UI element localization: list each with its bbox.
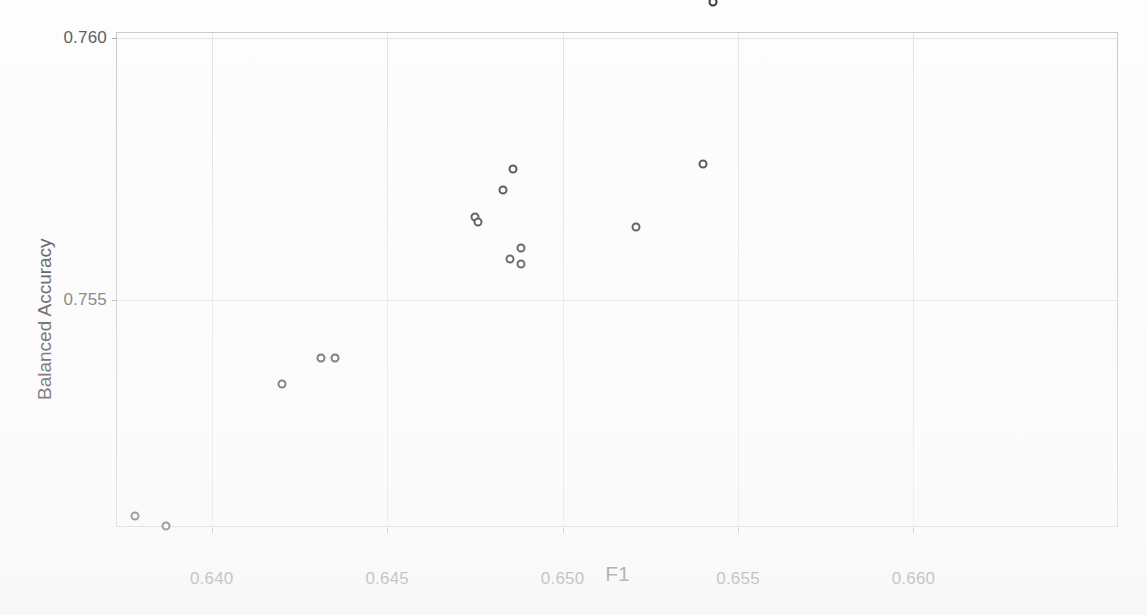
y-tick-mark (112, 38, 117, 39)
x-tick-mark (212, 528, 213, 533)
x-gridline (913, 33, 914, 526)
data-point (316, 354, 325, 363)
data-point (516, 244, 525, 253)
x-tick-mark (913, 528, 914, 533)
x-tick-mark (387, 528, 388, 533)
x-tick-mark (738, 528, 739, 533)
data-point (698, 160, 707, 169)
y-tick-label: 0.755 (17, 290, 107, 310)
data-point (516, 259, 525, 268)
y-tick-label: 0.760 (17, 28, 107, 48)
data-point (509, 165, 518, 174)
x-gridline (387, 33, 388, 526)
x-axis-label-text: F1 (605, 562, 630, 585)
plot-area: 0.6400.6450.6500.6550.6600.7550.760 (116, 32, 1118, 527)
data-point (162, 522, 171, 531)
y-axis-label: Balanced Accuracy (34, 238, 56, 400)
y-gridline (117, 38, 1117, 39)
x-gridline (738, 33, 739, 526)
x-axis-label: F1 (0, 562, 1147, 586)
data-point (498, 186, 507, 195)
scatter-plot-figure: 0.6400.6450.6500.6550.6600.7550.760 F1 B… (0, 0, 1147, 615)
x-tick-mark (563, 528, 564, 533)
data-point (505, 254, 514, 263)
data-point (330, 354, 339, 363)
x-gridline (563, 33, 564, 526)
data-point (474, 217, 483, 226)
y-tick-mark (112, 300, 117, 301)
data-point (277, 380, 286, 389)
y-gridline (117, 300, 1117, 301)
data-point (632, 223, 641, 232)
x-gridline (212, 33, 213, 526)
data-point (130, 511, 139, 520)
